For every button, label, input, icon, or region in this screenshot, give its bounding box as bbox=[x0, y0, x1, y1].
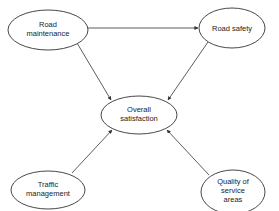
node-road-safety: Road safety bbox=[199, 8, 265, 48]
node-label-line: areas bbox=[224, 195, 243, 204]
node-label-line: management bbox=[26, 189, 71, 198]
node-label-line: maintenance bbox=[27, 29, 70, 38]
node-label-line: Road safety bbox=[212, 24, 252, 33]
node-traffic-management: Traffic management bbox=[11, 171, 85, 209]
node-label-line: satisfaction bbox=[120, 114, 158, 123]
node-label-line: Road bbox=[39, 20, 57, 29]
node-label-line: Traffic bbox=[38, 180, 59, 189]
node-label-line: service bbox=[221, 186, 245, 195]
node-label-line: Overall bbox=[127, 105, 151, 114]
edge-quality-service-areas-to-overall-satisfaction bbox=[167, 130, 209, 175]
path-diagram: Road maintenance Road safety Overall sat… bbox=[0, 0, 279, 211]
node-overall-satisfaction: Overall satisfaction bbox=[101, 96, 177, 134]
edge-traffic-management-to-overall-satisfaction bbox=[72, 130, 112, 173]
edge-road-maintenance-to-overall-satisfaction bbox=[77, 43, 111, 100]
node-road-maintenance: Road maintenance bbox=[8, 10, 88, 50]
node-label-line: Quality of bbox=[217, 177, 250, 186]
edge-road-safety-to-overall-satisfaction bbox=[168, 42, 208, 100]
node-quality-service-areas: Quality of service areas bbox=[201, 170, 265, 211]
